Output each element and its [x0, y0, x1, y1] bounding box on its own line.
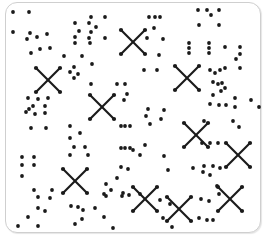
dot [217, 23, 221, 27]
dot [123, 82, 127, 86]
dot [94, 25, 98, 29]
dot [159, 117, 163, 121]
dot [102, 215, 106, 219]
dot [146, 107, 150, 111]
dot [80, 217, 84, 221]
dot [33, 112, 37, 116]
dot [103, 15, 107, 19]
dot [237, 125, 241, 129]
dot [72, 65, 76, 69]
dot [11, 10, 15, 14]
dot [120, 194, 124, 198]
dot [147, 15, 151, 19]
dot [103, 36, 107, 40]
x-connector-icon [173, 64, 201, 92]
x-connector-icon [119, 28, 147, 56]
dot [68, 70, 72, 74]
dot [208, 68, 212, 72]
dot [102, 192, 106, 196]
dot [123, 124, 127, 128]
dot [36, 97, 40, 101]
dot [43, 209, 47, 213]
dot [231, 119, 235, 123]
dot [217, 103, 221, 107]
dot [207, 41, 211, 45]
dot [148, 122, 152, 126]
dot [76, 205, 80, 209]
dot [238, 66, 242, 70]
dot [207, 46, 211, 50]
x-connector-icon [182, 121, 210, 149]
dot [119, 146, 123, 150]
dot [138, 192, 142, 196]
dot [72, 76, 76, 80]
dot [217, 8, 221, 12]
dot [73, 21, 77, 25]
dot [187, 46, 191, 50]
dot [32, 188, 36, 192]
dot [187, 51, 191, 55]
dot [27, 107, 31, 111]
dot [126, 167, 130, 171]
dot [168, 202, 172, 206]
dot [216, 141, 220, 145]
dot [32, 155, 36, 159]
dot [48, 46, 52, 50]
dot [115, 176, 119, 180]
dot [35, 35, 39, 39]
dot [11, 30, 15, 34]
dot [45, 32, 49, 36]
dot [31, 104, 35, 108]
dot [20, 155, 24, 159]
dot [213, 71, 217, 75]
dot [62, 54, 66, 58]
dot [119, 165, 123, 169]
dot [170, 225, 174, 229]
dot [218, 68, 222, 72]
dot [211, 93, 215, 97]
dot [202, 119, 206, 123]
dot [20, 163, 24, 167]
dot [211, 218, 215, 222]
x-connector-icon [131, 185, 159, 213]
dot [68, 153, 72, 157]
dot [208, 173, 212, 177]
dot [69, 204, 73, 208]
dot [205, 218, 209, 222]
x-connector-icon [224, 141, 252, 169]
dot [142, 68, 146, 72]
dot [109, 188, 113, 192]
dot [215, 184, 219, 188]
dot [143, 143, 147, 147]
dot [153, 15, 157, 19]
dot [217, 192, 221, 196]
dot [187, 41, 191, 45]
x-connector-icon [88, 93, 116, 121]
dot [24, 110, 28, 114]
dot [196, 8, 200, 12]
dot [123, 146, 127, 150]
dot [233, 105, 237, 109]
dot [68, 124, 72, 128]
dot [115, 82, 119, 86]
dot [223, 86, 227, 90]
dot [200, 141, 204, 145]
dot [27, 10, 31, 14]
dot [32, 163, 36, 167]
dot [36, 206, 40, 210]
dot [86, 153, 90, 157]
dot [16, 224, 20, 228]
dot [38, 47, 42, 51]
dot [87, 21, 91, 25]
dot [207, 51, 211, 55]
dot [223, 66, 227, 70]
dot [26, 215, 30, 219]
dot [93, 206, 97, 210]
x-connector-icon [165, 195, 193, 223]
dot [202, 164, 206, 168]
dot [223, 45, 227, 49]
dot [211, 80, 215, 84]
dot [158, 198, 162, 202]
dot [80, 54, 84, 58]
dot [144, 114, 148, 118]
